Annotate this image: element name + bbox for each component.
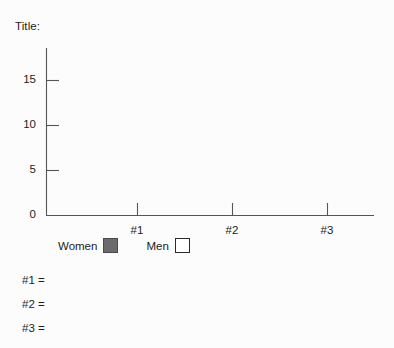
legend-entry-men: Men bbox=[146, 238, 189, 253]
legend-swatch-women bbox=[103, 238, 118, 253]
legend-label-women: Women bbox=[58, 240, 97, 252]
legend-swatch-men bbox=[175, 238, 190, 253]
category-key-1: #1 = bbox=[22, 268, 45, 292]
x-tick-label-1: #1 bbox=[117, 224, 157, 236]
category-key-3: #3 = bbox=[22, 316, 45, 340]
y-tick-label-0: 0 bbox=[8, 208, 36, 220]
legend-label-men: Men bbox=[146, 240, 168, 252]
legend-entry-women: Women bbox=[58, 238, 118, 253]
chart-worksheet-page: Title: 15 10 5 0 #1 #2 #3 Women Men bbox=[0, 0, 394, 348]
y-tick-label-15: 15 bbox=[8, 73, 36, 85]
y-tick-label-10: 10 bbox=[8, 118, 36, 130]
chart-legend: Women Men bbox=[58, 238, 190, 253]
x-tick-label-3: #3 bbox=[307, 224, 347, 236]
category-key-list: #1 = #2 = #3 = bbox=[22, 268, 45, 340]
category-key-2: #2 = bbox=[22, 292, 45, 316]
plot-axes bbox=[0, 0, 394, 348]
x-tick-label-2: #2 bbox=[212, 224, 252, 236]
y-tick-label-5: 5 bbox=[8, 163, 36, 175]
